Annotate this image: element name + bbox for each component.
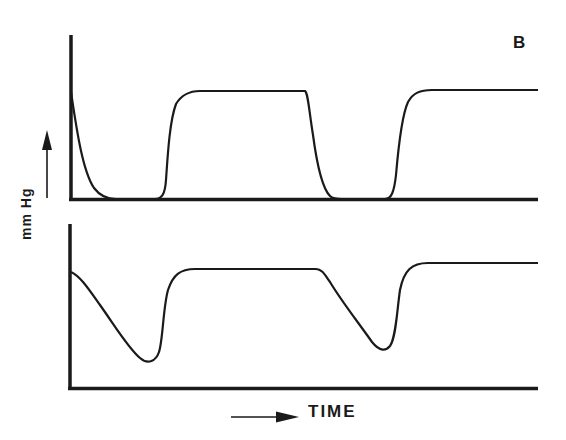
y-arrow-icon — [42, 130, 52, 198]
lower-panel — [68, 224, 538, 390]
y-axis-label: mm Hg — [18, 188, 34, 240]
x-axis-label: TIME — [308, 402, 357, 422]
figure-canvas — [0, 0, 566, 440]
panel-label: B — [513, 33, 525, 53]
lower-trace — [71, 263, 538, 362]
upper-trace — [71, 90, 538, 199]
upper-panel — [69, 35, 538, 201]
x-arrow-icon — [231, 412, 299, 423]
